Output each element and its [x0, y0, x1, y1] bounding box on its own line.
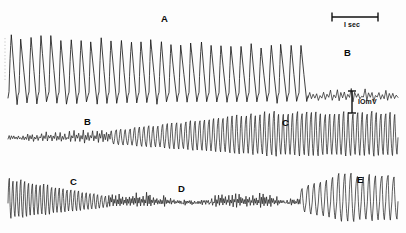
phase-label-e-strip3: E — [357, 175, 364, 185]
recording-svg — [0, 0, 406, 233]
voltage-scale-label: IOmV — [358, 98, 377, 105]
phase-label-d-strip3: D — [178, 184, 185, 194]
time-scale-label: I sec — [344, 21, 360, 28]
phase-label-c-strip2: C — [282, 118, 289, 128]
phase-label-a-strip1: A — [161, 14, 168, 24]
phase-label-b-strip1: B — [344, 48, 351, 58]
strip-3-trace — [8, 173, 398, 221]
phase-label-b-strip2: B — [84, 117, 91, 127]
voltage-scale-bar — [348, 91, 356, 113]
figure-canvas: A B B C C D E I sec IOmV — [0, 0, 406, 233]
phase-label-c-strip3: C — [70, 177, 77, 187]
strip-2-trace — [8, 111, 398, 156]
strip-1-trace — [8, 35, 398, 105]
